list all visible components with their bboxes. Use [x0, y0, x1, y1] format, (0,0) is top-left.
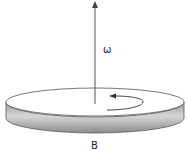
- disk-label: B: [91, 140, 98, 151]
- arrowhead-icon: [92, 1, 98, 8]
- omega-label: ω: [103, 44, 111, 55]
- diagram-canvas: ω B: [0, 0, 188, 151]
